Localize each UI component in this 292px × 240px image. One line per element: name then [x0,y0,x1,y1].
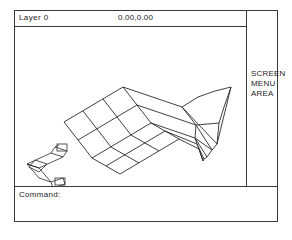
command-line-area[interactable]: Command: [15,187,277,221]
screen-menu-area[interactable]: SCREEN MENU AREA [247,27,278,186]
drawing-area[interactable] [15,27,246,186]
status-bar: Layer 0 0.00,0.00 [15,11,246,27]
command-prompt-label: Command: [19,190,61,199]
status-layer-label[interactable]: Layer 0 [19,13,48,22]
ucs-icon[interactable] [27,144,67,186]
mesh-surface-3d[interactable] [64,87,231,174]
drawing-canvas[interactable] [15,27,246,186]
cad-application-screen: Layer 0 0.00,0.00 [0,0,292,240]
application-frame: Layer 0 0.00,0.00 [14,10,278,222]
screen-menu-label: SCREEN MENU AREA [251,69,286,99]
screen-menu-line-1: SCREEN [251,69,286,79]
status-coordinate-display[interactable]: 0.00,0.00 [118,13,153,22]
screen-menu-line-2: MENU [251,79,286,89]
screen-menu-line-3: AREA [251,89,286,99]
